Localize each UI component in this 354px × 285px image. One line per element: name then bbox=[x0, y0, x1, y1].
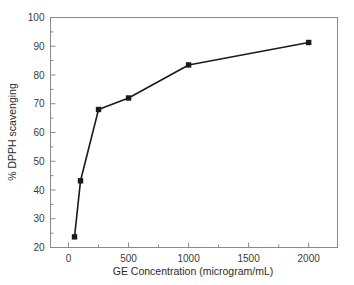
data-point-2000 bbox=[306, 40, 311, 45]
x-tick-label-1000: 1000 bbox=[177, 253, 200, 264]
x-tick-label-1500: 1500 bbox=[238, 253, 261, 264]
y-tick-label-100: 100 bbox=[28, 12, 45, 23]
y-tick-label-80: 80 bbox=[33, 70, 45, 81]
x-tick-label-2000: 2000 bbox=[298, 253, 321, 264]
dpph-scavenging-line-chart: 2030405060708090100 0500100015002000 GE … bbox=[0, 0, 354, 285]
y-tick-label-50: 50 bbox=[33, 156, 45, 167]
y-tick-label-40: 40 bbox=[33, 185, 45, 196]
y-tick-label-30: 30 bbox=[33, 213, 45, 224]
x-tick-label-500: 500 bbox=[120, 253, 137, 264]
y-tick-label-60: 60 bbox=[33, 127, 45, 138]
data-point-100 bbox=[78, 178, 83, 183]
figure-background bbox=[0, 0, 354, 285]
y-tick-label-90: 90 bbox=[33, 41, 45, 52]
chart-figure: 2030405060708090100 0500100015002000 GE … bbox=[0, 0, 354, 285]
data-point-50 bbox=[72, 234, 77, 239]
y-axis-title: % DPPH scavenging bbox=[6, 83, 18, 181]
data-point-1000 bbox=[186, 62, 191, 67]
y-tick-label-20: 20 bbox=[33, 242, 45, 253]
data-point-250 bbox=[96, 107, 101, 112]
y-tick-label-70: 70 bbox=[33, 98, 45, 109]
x-tick-label-0: 0 bbox=[66, 253, 72, 264]
data-point-500 bbox=[126, 95, 131, 100]
x-axis-title: GE Concentration (microgram/mL) bbox=[113, 265, 273, 277]
